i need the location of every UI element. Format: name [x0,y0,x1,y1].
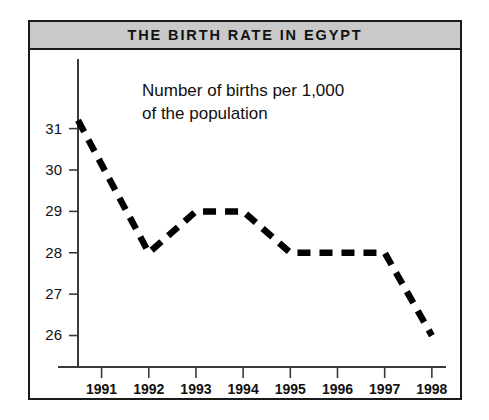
y-tick-label-26: 26 [45,326,62,343]
y-axis-ticks [69,129,78,336]
y-tick-label-29: 29 [45,202,62,219]
x-tick-label-1991: 1991 [86,381,117,397]
x-tick-label-1997: 1997 [369,381,400,397]
x-tick-label-1992: 1992 [133,381,164,397]
x-tick-label-1994: 1994 [228,381,259,397]
chart-title-banner: THE BIRTH RATE IN EGYPT [30,22,460,50]
chart-figure: THE BIRTH RATE IN EGYPT Number of births… [28,20,462,400]
x-axis-tick-labels: 19911992199319941995199619971998 [86,381,448,397]
y-axis-tick-labels: 313029282726 [45,120,62,344]
chart-plot-svg: 313029282726 199119921993199419951996199… [30,50,460,398]
plot-area: Number of births per 1,000 of the popula… [30,50,460,398]
birth-rate-data-line [78,120,432,335]
x-tick-label-1995: 1995 [275,381,306,397]
x-tick-label-1998: 1998 [416,381,447,397]
y-tick-label-28: 28 [45,244,62,261]
x-tick-label-1993: 1993 [180,381,211,397]
x-axis-ticks [102,367,432,378]
x-tick-label-1996: 1996 [322,381,353,397]
y-tick-label-27: 27 [45,285,62,302]
page-title: THE BIRTH RATE IN EGYPT [127,27,362,43]
y-tick-label-31: 31 [45,120,62,137]
y-tick-label-30: 30 [45,161,62,178]
